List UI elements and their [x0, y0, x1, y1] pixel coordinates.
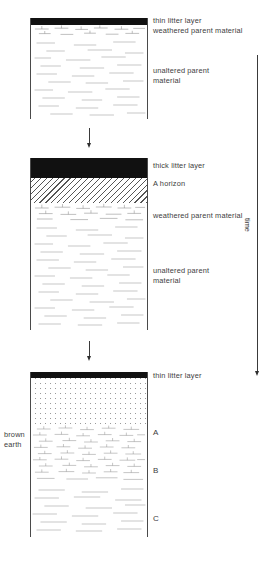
stage-2-litter-layer: [31, 158, 147, 178]
litter-irregular-edge: [31, 18, 147, 25]
stage-3-label-litter: thin litter layer: [153, 371, 202, 381]
c-horizon-dash-texture: [31, 485, 147, 537]
stage-1-label-litter: thin litter layer: [153, 16, 202, 26]
stage-2-profile-column: [30, 158, 148, 330]
b-horizon-tick-texture: [31, 425, 147, 485]
weathered-tick-texture: [31, 25, 147, 38]
stage-1-label-unaltered: unaltered parent material: [153, 66, 209, 85]
stage-2-unaltered-zone: [31, 223, 147, 330]
weathered-tick-texture: [31, 203, 147, 223]
stage-3-label-a-horizon: A: [153, 428, 159, 438]
cropped-caption-fragment: [0, 556, 275, 562]
thick-litter-irregular-edge: [31, 158, 147, 178]
brown-earth-side-label: brown earth: [4, 430, 25, 449]
unaltered-dash-texture: [31, 38, 147, 119]
stage-1-column-body: [30, 18, 148, 119]
stage-3-column-body: [30, 372, 148, 537]
stage-3-a-horizon: [31, 378, 147, 425]
stage-3-label-c-horizon: C: [153, 514, 159, 524]
stage-2-label-weathered: weathered parent material: [153, 211, 243, 221]
stage-2-a-horizon: [31, 178, 147, 203]
stage-1-litter-layer: [31, 18, 147, 25]
stage-3-b-horizon: [31, 425, 147, 485]
stage-1-profile-column: [30, 18, 148, 119]
stage-3-label-b-horizon: B: [153, 466, 159, 476]
unaltered-dash-texture: [31, 223, 147, 330]
stage-2-label-a-horizon: A horizon: [153, 179, 185, 189]
stage-2-label-unaltered: unaltered parent material: [153, 266, 209, 285]
stage-2-column-body: [30, 158, 148, 330]
stage-3-profile-column: [30, 372, 148, 537]
stage-1-weathered-zone: [31, 25, 147, 38]
time-axis-label: time: [243, 218, 252, 232]
stage-2-weathered-zone: [31, 203, 147, 223]
stage-3-c-horizon: [31, 485, 147, 537]
stage-1-unaltered-zone: [31, 38, 147, 119]
stage-2-label-litter: thick litter layer: [153, 161, 205, 171]
stage-1-label-weathered: weathered parent material: [153, 26, 243, 36]
soil-profile-diagram: thin litter layer weathered parent mater…: [0, 0, 275, 562]
